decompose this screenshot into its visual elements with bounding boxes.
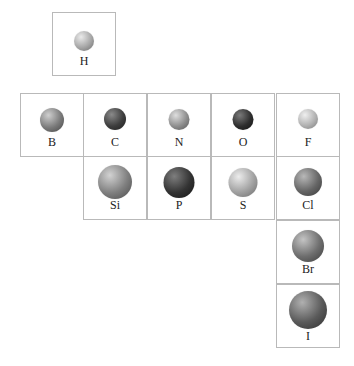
element-symbol: O — [212, 135, 274, 150]
atom-sphere-icon — [229, 168, 258, 197]
atom-sphere-icon — [98, 165, 132, 199]
atom-sphere-icon — [233, 109, 254, 130]
element-cell-h: H — [52, 12, 116, 76]
element-symbol: H — [53, 54, 115, 69]
atom-sphere-icon — [169, 109, 190, 130]
atom-sphere-icon — [294, 168, 322, 196]
atom-sphere-icon — [289, 291, 327, 329]
element-symbol: F — [277, 135, 339, 150]
element-cell-cl: Cl — [276, 156, 340, 220]
element-symbol: Br — [277, 262, 339, 277]
element-symbol: C — [84, 135, 146, 150]
element-cell-br: Br — [276, 220, 340, 284]
element-symbol: P — [148, 198, 210, 213]
atom-sphere-icon — [292, 230, 324, 262]
element-cell-o: O — [211, 93, 275, 157]
element-cell-si: Si — [83, 156, 147, 220]
element-symbol: B — [21, 135, 83, 150]
atom-sphere-icon — [40, 108, 64, 132]
element-symbol: N — [148, 135, 210, 150]
element-cell-s: S — [211, 156, 275, 220]
atom-sphere-icon — [104, 108, 126, 130]
element-cell-p: P — [147, 156, 211, 220]
element-cell-n: N — [147, 93, 211, 157]
atom-sphere-icon — [164, 167, 195, 198]
element-symbol: Si — [84, 198, 146, 213]
element-symbol: I — [277, 329, 339, 344]
element-cell-i: I — [276, 284, 340, 348]
element-cell-b: B — [20, 93, 84, 157]
element-symbol: S — [212, 198, 274, 213]
atom-sphere-icon — [298, 109, 318, 129]
element-cell-c: C — [83, 93, 147, 157]
atom-sphere-icon — [74, 31, 94, 51]
element-symbol: Cl — [277, 198, 339, 213]
element-cell-f: F — [276, 93, 340, 157]
